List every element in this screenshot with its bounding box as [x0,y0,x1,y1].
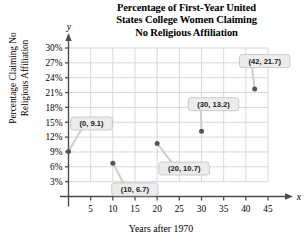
callout-label: (10, 6.7) [121,185,150,194]
callout-leader-line [113,163,123,183]
x-tick-label: 20 [153,204,163,214]
chart-figure: Percentage of First-Year United States C… [0,0,307,243]
x-tick-label: 35 [219,204,229,214]
callout-label: (30, 13.2) [197,100,230,109]
y-tick-label: 15% [45,118,62,128]
callout-label: (42, 21.7) [248,57,281,66]
x-axis-symbol: x [296,191,302,202]
y-tick-label: 12% [45,132,62,142]
data-point-marker [199,129,204,134]
callout-label: (20, 10.7) [168,164,201,173]
data-point-marker [252,87,257,92]
callout-label: (0, 9.1) [79,119,104,128]
y-axis-arrowhead [65,33,71,41]
callout-leader-line [69,130,82,152]
y-tick-label: 24% [45,73,62,83]
x-axis-arrowhead [285,193,293,199]
data-point-marker [110,161,115,166]
x-tick-label: 40 [241,204,251,214]
callout-leader-line [201,111,202,132]
y-tick-label: 27% [45,58,62,68]
x-tick-label: 30 [197,204,207,214]
y-tick-label: 21% [45,88,62,98]
callout-leader-line [252,68,255,90]
x-tick-label: 45 [263,204,273,214]
y-axis-symbol: y [66,21,72,32]
gridlines [69,48,269,182]
point-callouts: (0, 9.1)(10, 6.7)(20, 10.7)(30, 13.2)(42… [71,55,290,196]
x-tick-label: 10 [108,204,118,214]
y-tick-label: 6% [50,162,63,172]
y-tick-label: 9% [50,147,63,157]
callout-leader-line [157,144,171,163]
y-tick-label: 30% [45,43,62,53]
scatter-plot: 3%6%9%12%15%18%21%24%27%30%5101520253035… [0,0,307,243]
y-tick-label: 3% [50,177,63,187]
x-tick-label: 25 [175,204,185,214]
y-tick-label: 18% [45,103,62,113]
x-tick-label: 5 [88,204,93,214]
data-point-marker [66,149,71,154]
data-point-marker [155,141,160,146]
x-tick-label: 15 [130,204,140,214]
